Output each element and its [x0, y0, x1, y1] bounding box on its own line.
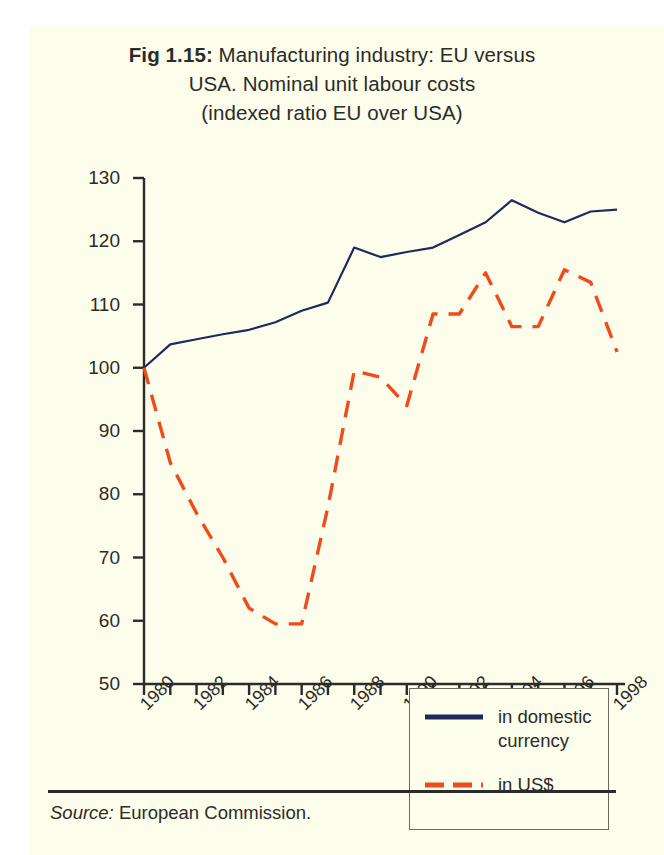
y-axis-tick-label: 50 [66, 673, 120, 695]
y-axis-tick-label: 100 [66, 357, 120, 379]
chart-legend: in domestic currency in US$ [409, 688, 609, 830]
source-label: Source: [50, 802, 114, 823]
legend-label-domestic-line2: currency [498, 730, 569, 751]
series-line-domestic-currency [144, 200, 617, 368]
y-axis-tick-label: 90 [66, 420, 120, 442]
y-axis-tick-label: 70 [66, 547, 120, 569]
y-axis-tick-label: 120 [66, 230, 120, 252]
y-axis-tick-label: 80 [66, 483, 120, 505]
legend-swatch-domestic-currency [424, 708, 484, 726]
chart-area: 1301201101009080706050 19801982198419861… [0, 160, 664, 720]
figure-title-line2: USA. Nominal unit labour costs [189, 72, 476, 95]
series-line-us-dollar [144, 270, 617, 624]
figure-title: Fig 1.15: Manufacturing industry: EU ver… [42, 40, 622, 127]
legend-item-domestic-currency: in domestic currency [424, 705, 592, 753]
figure-page: Fig 1.15: Manufacturing industry: EU ver… [0, 0, 664, 855]
y-axis-tick-label: 110 [66, 294, 120, 316]
figure-label: Fig 1.15: [129, 43, 213, 66]
legend-label-domestic-line1: in domestic [498, 706, 592, 727]
source-text: European Commission. [119, 802, 311, 823]
figure-title-line1: Manufacturing industry: EU versus [219, 43, 536, 66]
source-note: Source: European Commission. [50, 802, 311, 824]
footer-rule [48, 790, 616, 793]
y-axis-tick-label: 60 [66, 610, 120, 632]
legend-label-us-dollar: in US$ [498, 773, 554, 797]
figure-title-line3: (indexed ratio EU over USA) [201, 101, 462, 124]
legend-label-domestic-currency: in domestic currency [498, 705, 592, 753]
legend-item-us-dollar: in US$ [424, 773, 554, 797]
y-axis-tick-label: 130 [66, 167, 120, 189]
